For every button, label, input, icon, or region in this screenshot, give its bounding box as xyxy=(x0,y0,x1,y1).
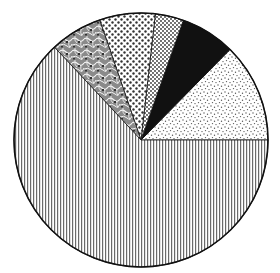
pie-chart xyxy=(0,0,280,273)
pie-slices xyxy=(14,13,268,267)
pie-chart-canvas xyxy=(0,0,280,273)
